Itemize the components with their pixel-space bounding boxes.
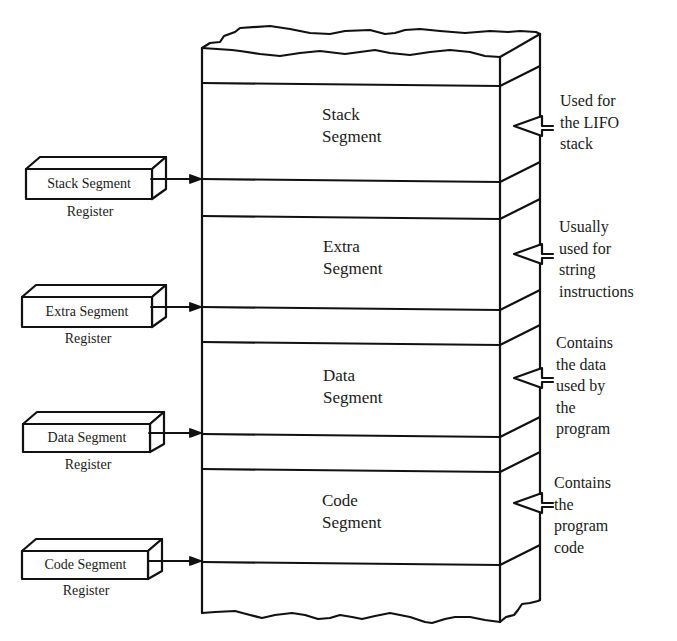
note-line: used for xyxy=(559,238,634,260)
segment-label-code: Code Segment xyxy=(322,490,382,534)
segment-subtitle: Segment xyxy=(322,512,382,534)
arrow-left-icon xyxy=(514,493,553,513)
segment-subtitle: Segment xyxy=(323,258,383,280)
note-line: Used for xyxy=(560,90,619,112)
note-line: stack xyxy=(560,133,619,155)
register-sub-stack: Register xyxy=(30,204,150,220)
register-name-code: Code Segment xyxy=(23,557,148,573)
note-line: Contains xyxy=(556,332,613,354)
segment-label-data: Data Segment xyxy=(323,365,383,409)
register-boxes xyxy=(22,157,166,579)
note-line: the LIFO xyxy=(560,112,619,134)
note-line: program xyxy=(556,418,613,440)
note-line: the xyxy=(554,494,611,516)
note-stack: Used for the LIFO stack xyxy=(560,90,619,155)
segment-title: Data xyxy=(323,365,383,387)
note-line: the data xyxy=(556,354,613,376)
arrow-left-icon xyxy=(514,116,553,136)
register-name-extra: Extra Segment xyxy=(23,304,151,320)
segment-subtitle: Segment xyxy=(323,387,383,409)
note-line: the xyxy=(556,397,613,419)
note-code: Contains the program code xyxy=(554,472,611,558)
segment-subtitle: Segment xyxy=(322,126,382,148)
register-name-data: Data Segment xyxy=(24,430,150,446)
note-line: string xyxy=(559,259,634,281)
note-line: program xyxy=(554,515,611,537)
register-sub-extra: Register xyxy=(28,331,148,347)
register-sub-code: Register xyxy=(26,583,146,599)
register-name-stack: Stack Segment xyxy=(28,176,150,192)
hollow-arrows xyxy=(514,116,553,513)
segment-title: Extra xyxy=(323,236,383,258)
segment-label-stack: Stack Segment xyxy=(322,104,382,148)
note-extra: Usually used for string instructions xyxy=(559,216,634,302)
note-line: used by xyxy=(556,375,613,397)
segment-title: Code xyxy=(322,490,382,512)
arrow-left-icon xyxy=(514,368,553,388)
arrow-left-icon xyxy=(514,244,553,264)
note-data: Contains the data used by the program xyxy=(556,332,613,440)
note-line: Usually xyxy=(559,216,634,238)
register-sub-data: Register xyxy=(28,457,148,473)
note-line: Contains xyxy=(554,472,611,494)
register-pointers xyxy=(148,175,201,565)
segment-label-extra: Extra Segment xyxy=(323,236,383,280)
note-line: code xyxy=(554,537,611,559)
segment-title: Stack xyxy=(322,104,382,126)
note-line: instructions xyxy=(559,281,634,303)
